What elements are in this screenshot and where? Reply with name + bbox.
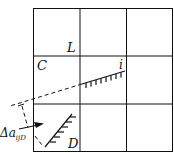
grid (34, 9, 173, 152)
label-i: i (119, 58, 123, 72)
surface-i (82, 71, 125, 88)
label-d: D (67, 136, 79, 151)
diagram: L C i D ΔaijD (0, 0, 174, 153)
label-delta-main: Δa (0, 126, 16, 140)
grid-border (34, 9, 173, 152)
label-c: C (37, 58, 47, 73)
label-delta-sub: ijD (16, 134, 26, 142)
delta-arrow (19, 122, 44, 129)
label-l: L (66, 40, 76, 55)
arrowhead-icon (34, 122, 44, 128)
tick-mark (18, 104, 24, 106)
